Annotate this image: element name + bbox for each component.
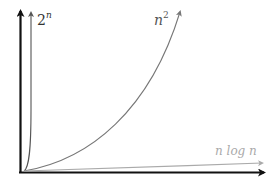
- complexity-diagram: [0, 0, 276, 186]
- nlogn-label: n log n: [215, 145, 257, 157]
- exp-curve: [24, 13, 31, 171]
- quad-label-sup: 2: [163, 10, 169, 20]
- nlogn-curve: [24, 163, 262, 171]
- exp-label-sup: n: [46, 10, 52, 20]
- exp-label: 2n: [37, 12, 52, 27]
- exp-label-base: 2: [37, 12, 46, 28]
- quad-label-base: n: [154, 12, 163, 28]
- quad-curve: [24, 12, 180, 171]
- nlogn-label-text: n log n: [215, 144, 257, 158]
- quad-label: n2: [154, 12, 169, 27]
